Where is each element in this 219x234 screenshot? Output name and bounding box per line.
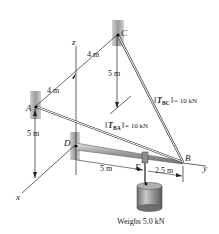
label-point-c: C — [121, 28, 128, 38]
label-z-axis: z — [71, 37, 76, 47]
tension-ba-label: ‖ T BA ‖ = 10 kN — [105, 121, 148, 131]
svg-text:‖: ‖ — [122, 121, 124, 130]
point-c — [116, 33, 119, 36]
dim-label-2-5m-eb: 2.5 m — [155, 166, 174, 175]
tension-bc-label: ‖ T BC ‖ = 10 kN — [154, 96, 197, 106]
dim-label-4m-lower: 4 m — [47, 86, 60, 95]
boom-db — [76, 143, 183, 164]
dim-label-5m-a: 5 m — [27, 129, 40, 138]
dim-tick-c — [110, 96, 131, 114]
label-point-a: A — [25, 103, 32, 113]
collar-e — [142, 152, 148, 163]
label-point-b: B — [185, 153, 191, 163]
weight-label: Weighs 5.0 kN — [117, 217, 165, 226]
svg-text:= 10 kN: = 10 kN — [125, 122, 148, 130]
svg-text:‖: ‖ — [105, 121, 107, 130]
weight-cylinder-top — [137, 183, 162, 190]
svg-text:= 10 kN: = 10 kN — [174, 97, 197, 105]
dim-label-4m-upper: 4 m — [87, 50, 100, 59]
x-axis — [22, 146, 74, 193]
svg-text:BA: BA — [113, 125, 121, 131]
point-a — [34, 105, 37, 108]
force-diagram: z x y C A D E B 4 m 4 m 5 m 5 m 5 m 2.5 … — [0, 0, 219, 234]
dim-label-5m-de: 5 m — [100, 164, 113, 173]
label-y-axis: y — [202, 163, 207, 173]
svg-text:BC: BC — [162, 100, 170, 106]
label-x-axis: x — [15, 192, 20, 202]
dim-line-ac — [36, 35, 117, 106]
svg-text:‖: ‖ — [171, 96, 173, 105]
dim-label-5m-c: 5 m — [108, 69, 121, 78]
label-point-d: D — [63, 138, 71, 148]
svg-text:‖: ‖ — [154, 96, 156, 105]
point-d — [74, 144, 77, 147]
label-point-e: E — [134, 162, 141, 172]
